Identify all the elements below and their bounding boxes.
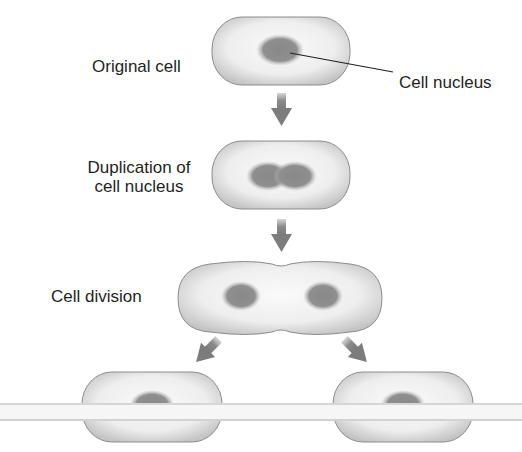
nucleus (256, 34, 304, 66)
arrow-down-right-icon (337, 332, 374, 369)
overlay-band (0, 403, 522, 421)
nucleus-right (273, 161, 317, 191)
label-duplication-line2: cell nucleus (73, 177, 205, 196)
duplicating-cell (212, 141, 350, 209)
nucleus-left (221, 281, 261, 311)
label-duplication: Duplication of cell nucleus (73, 158, 205, 196)
arrow-down-icon (271, 219, 292, 252)
label-original-cell: Original cell (92, 57, 181, 76)
label-duplication-line1: Duplication of (73, 158, 205, 177)
label-cell-division: Cell division (51, 287, 142, 306)
dividing-cell (178, 262, 382, 335)
original-cell (212, 17, 350, 85)
nucleus-right (303, 281, 343, 311)
cell-division-diagram (0, 0, 522, 452)
arrow-down-left-icon (189, 332, 226, 369)
arrow-down-icon (271, 93, 292, 126)
label-cell-nucleus: Cell nucleus (399, 73, 492, 92)
